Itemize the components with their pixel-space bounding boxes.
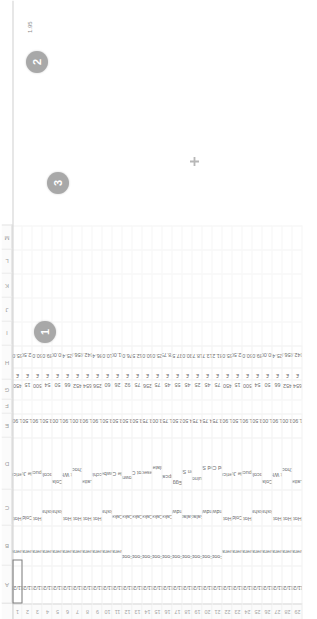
cell-date[interactable]: 17/11/2016	[73, 565, 83, 603]
table-row[interactable]: 2918/11/2016BeverageHotLatte1.90654£1,24…	[293, 225, 303, 619]
cell-date[interactable]: 17/11/2016	[163, 565, 173, 603]
cell-empty-m[interactable]	[23, 225, 33, 249]
cell-item[interactable]: Cola	[263, 437, 273, 489]
cell-type[interactable]: Cake	[143, 489, 153, 525]
row-header[interactable]: 2	[23, 603, 33, 619]
cell-empty-k[interactable]	[293, 273, 303, 297]
cell-empty-l[interactable]	[243, 249, 253, 273]
cell-date[interactable]: 17/11/2016	[173, 565, 183, 603]
cell-empty[interactable]	[23, 399, 33, 413]
cell-empty-i[interactable]	[113, 321, 123, 345]
column-header-f[interactable]: F	[2, 398, 13, 412]
cell-empty-i[interactable]	[283, 321, 293, 345]
cell-date[interactable]: 18/11/2016	[233, 565, 243, 603]
cell-qty[interactable]: 45	[183, 379, 193, 399]
cell-empty-j[interactable]	[213, 297, 223, 321]
cell-currency[interactable]: £	[203, 367, 213, 379]
cell-empty-j[interactable]	[183, 297, 193, 321]
cell-item[interactable]: Macchiato	[93, 437, 103, 489]
cell-empty-i[interactable]	[243, 321, 253, 345]
cell-total[interactable]: 262.50	[133, 345, 143, 367]
cell-qty[interactable]: 75	[153, 379, 163, 399]
cell-empty-j[interactable]	[113, 297, 123, 321]
cell-qty[interactable]: 25	[193, 379, 203, 399]
table-row[interactable]: 317/11/2016BeverageHotCappuccino1.90500£…	[33, 225, 43, 619]
cell-empty-m[interactable]	[13, 225, 23, 249]
cell-empty-k[interactable]	[33, 273, 43, 297]
cell-empty-j[interactable]	[13, 297, 23, 321]
cell-empty-m[interactable]	[133, 225, 143, 249]
table-row[interactable]: 1117/11/2016BeverageCakeApple Cake3.5026…	[113, 225, 123, 619]
cell-currency[interactable]: £	[233, 367, 243, 379]
cell-empty[interactable]	[283, 399, 293, 413]
cell-empty-l[interactable]	[33, 249, 43, 273]
cell-date[interactable]: 17/11/2016	[43, 565, 53, 603]
cell-empty-l[interactable]	[93, 249, 103, 273]
cell-type[interactable]: Cake	[113, 489, 123, 525]
row-header[interactable]: 5	[53, 603, 63, 619]
cell-empty-i[interactable]	[253, 321, 263, 345]
cell-currency[interactable]: £	[223, 367, 233, 379]
row-header[interactable]: 14	[143, 603, 153, 619]
column-header-h[interactable]: H	[2, 344, 13, 378]
cell-empty[interactable]	[263, 399, 273, 413]
row-header[interactable]: 7	[73, 603, 83, 619]
cell-currency[interactable]: £	[283, 367, 293, 379]
cell-category[interactable]: Beverage	[113, 525, 123, 565]
cell-type[interactable]: Hot	[223, 489, 233, 525]
cell-total[interactable]: 118.75	[193, 345, 203, 367]
cell-empty-l[interactable]	[173, 249, 183, 273]
cell-date[interactable]: 17/11/2016	[133, 565, 143, 603]
cell-empty[interactable]	[93, 399, 103, 413]
cell-category[interactable]: Beverage	[73, 525, 83, 565]
cell-empty-m[interactable]	[143, 225, 153, 249]
cell-currency[interactable]: £	[253, 367, 263, 379]
cell-empty-j[interactable]	[233, 297, 243, 321]
cell-price[interactable]: 1.90	[273, 413, 283, 437]
cell-empty-j[interactable]	[83, 297, 93, 321]
cell-empty[interactable]	[33, 399, 43, 413]
cell-item[interactable]: Egg	[173, 437, 183, 489]
table-row[interactable]: 2518/11/2016BeverageMilkshakeChocolate3.…	[253, 225, 263, 619]
cell-empty-i[interactable]	[13, 321, 23, 345]
cell-empty-l[interactable]	[63, 249, 73, 273]
cell-empty-i[interactable]	[203, 321, 213, 345]
cell-empty-k[interactable]	[73, 273, 83, 297]
cell-total[interactable]: 1,356.00	[283, 345, 293, 367]
cell-empty-j[interactable]	[143, 297, 153, 321]
cell-date[interactable]: 17/11/2016	[213, 565, 223, 603]
cell-total[interactable]: 1,356.00	[73, 345, 83, 367]
cell-empty-l[interactable]	[43, 249, 53, 273]
cell-category[interactable]: Beverage	[243, 525, 253, 565]
cell-date[interactable]: 18/11/2016	[283, 565, 293, 603]
cell-empty-k[interactable]	[263, 273, 273, 297]
cell-price[interactable]: 1.50	[23, 413, 33, 437]
cell-price[interactable]: 3.50	[133, 413, 143, 437]
cell-currency[interactable]: £	[193, 367, 203, 379]
cell-category[interactable]: Food	[123, 525, 133, 565]
cell-price[interactable]: 3.75	[213, 413, 223, 437]
cell-empty[interactable]	[13, 399, 23, 413]
cell-empty-k[interactable]	[243, 273, 253, 297]
cell-empty[interactable]	[273, 399, 283, 413]
cell-price[interactable]: 1.90	[243, 413, 253, 437]
cell-price[interactable]: 1.90	[93, 413, 103, 437]
cell-empty-i[interactable]	[23, 321, 33, 345]
cell-empty-m[interactable]	[163, 225, 173, 249]
cell-currency[interactable]: £	[113, 367, 123, 379]
cell-category[interactable]: Beverage	[273, 525, 283, 565]
cell-empty-l[interactable]	[113, 249, 123, 273]
cell-empty-j[interactable]	[23, 297, 33, 321]
cell-date[interactable]: 17/11/2016	[183, 565, 193, 603]
cell-item[interactable]: Chocolate	[43, 437, 53, 489]
row-header[interactable]: 1	[13, 603, 23, 619]
cell-qty[interactable]: 256	[143, 379, 153, 399]
cell-type[interactable]: Hot	[13, 489, 23, 525]
cell-empty[interactable]	[223, 399, 233, 413]
cell-category[interactable]: Food	[133, 525, 143, 565]
cell-date[interactable]: 17/11/2016	[103, 565, 113, 603]
table-row[interactable]: 817/11/2016BeverageHotLatte1.90654£1,242…	[83, 225, 93, 619]
cell-empty-j[interactable]	[33, 297, 43, 321]
cell-total[interactable]: 22.50	[233, 345, 243, 367]
row-header[interactable]: 13	[133, 603, 143, 619]
